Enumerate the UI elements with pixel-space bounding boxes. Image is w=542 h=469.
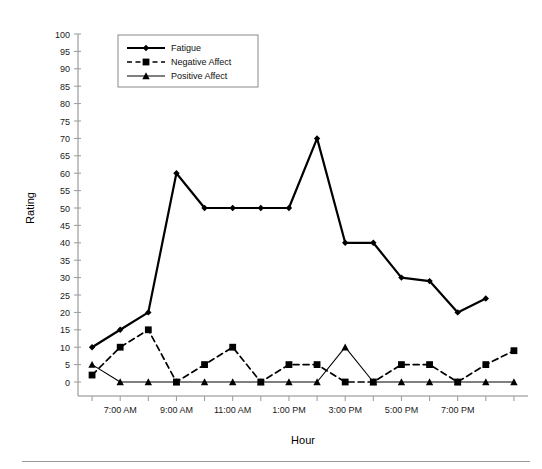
y-axis-tick-label: 60 [60, 169, 70, 179]
y-axis-tick-label: 100 [55, 30, 70, 40]
x-axis-tick-label: 7:00 AM [104, 405, 137, 415]
data-point-marker [426, 361, 433, 368]
data-point-marker [89, 372, 96, 379]
y-axis-tick-label: 25 [60, 291, 70, 301]
y-axis-tick-label: 40 [60, 238, 70, 248]
x-axis-title: Hour [291, 434, 315, 446]
y-axis-tick-label: 70 [60, 134, 70, 144]
y-axis-title: Rating [24, 192, 36, 224]
data-point-marker [342, 240, 348, 246]
legend-marker [143, 59, 150, 66]
data-point-marker [229, 205, 235, 211]
legend-label: Positive Affect [171, 71, 228, 81]
y-axis-tick-label: 45 [60, 221, 70, 231]
footer-divider [22, 461, 530, 462]
x-axis-tick-label: 3:00 PM [328, 405, 362, 415]
data-point-marker [342, 379, 349, 386]
data-point-marker [341, 344, 348, 351]
data-point-marker [88, 361, 95, 368]
x-axis-tick-label: 1:00 PM [272, 405, 306, 415]
y-axis-tick-label: 15 [60, 325, 70, 335]
x-axis-tick-label: 11:00 AM [214, 405, 251, 415]
series-fatigue [89, 135, 489, 350]
y-axis-tick-label: 30 [60, 273, 70, 283]
y-axis-tick-label: 95 [60, 47, 70, 57]
data-point-marker [286, 361, 293, 368]
chart-figure: 0510152025303540455055606570758085909510… [0, 0, 542, 469]
series-line [92, 330, 514, 382]
data-point-marker [258, 205, 264, 211]
x-axis-tick-label: 7:00 PM [441, 405, 475, 415]
line-chart: 0510152025303540455055606570758085909510… [0, 0, 542, 469]
series-negative-affect [89, 326, 518, 385]
chart-legend: FatigueNegative AffectPositive Affect [118, 35, 258, 87]
data-point-marker [511, 347, 518, 354]
y-axis-tick-label: 10 [60, 343, 70, 353]
data-point-marker [145, 326, 152, 333]
y-axis-tick-label: 35 [60, 256, 70, 266]
y-axis-tick-label: 5 [65, 360, 70, 370]
y-axis-tick-label: 75 [60, 117, 70, 127]
y-axis-tick-label: 85 [60, 82, 70, 92]
y-axis-tick-label: 20 [60, 308, 70, 318]
y-axis-tick-label: 55 [60, 186, 70, 196]
data-point-marker [314, 135, 320, 141]
data-point-marker [117, 344, 124, 351]
data-point-marker [229, 344, 236, 351]
y-axis-tick-label: 80 [60, 99, 70, 109]
data-point-marker [201, 361, 208, 368]
legend-label: Fatigue [171, 43, 201, 53]
series-line [92, 138, 486, 347]
y-axis-tick-label: 50 [60, 204, 70, 214]
legend-label: Negative Affect [171, 57, 232, 67]
x-axis-tick-label: 9:00 AM [160, 405, 193, 415]
y-axis-tick-label: 0 [65, 378, 70, 388]
y-axis-tick-label: 90 [60, 64, 70, 74]
data-point-marker [398, 361, 405, 368]
y-axis-tick-label: 65 [60, 151, 70, 161]
data-point-marker [286, 205, 292, 211]
x-axis-tick-label: 5:00 PM [385, 405, 419, 415]
data-point-marker [482, 361, 489, 368]
data-point-marker [314, 361, 321, 368]
